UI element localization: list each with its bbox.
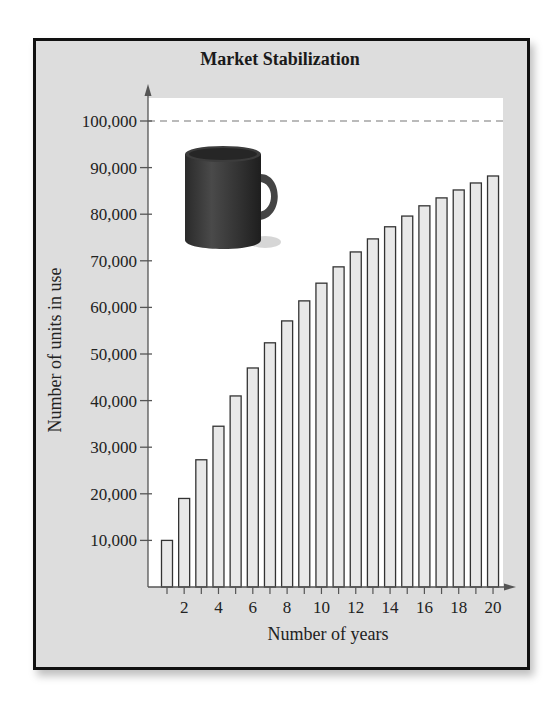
bar <box>367 239 378 587</box>
bar <box>282 321 293 587</box>
y-tick-label: 20,000 <box>90 485 137 504</box>
y-axis-label: Number of units in use <box>45 268 66 433</box>
x-tick-label: 6 <box>249 598 258 617</box>
y-tick-label: 30,000 <box>90 438 137 457</box>
x-axis-arrow-icon <box>504 584 516 591</box>
y-tick-label: 80,000 <box>90 205 137 224</box>
bar <box>436 198 447 587</box>
y-axis-arrow-icon <box>145 84 152 96</box>
y-tick-label: 90,000 <box>90 159 137 178</box>
bar <box>213 426 224 587</box>
bar <box>350 252 361 587</box>
x-tick-label: 16 <box>416 598 433 617</box>
y-tick-label: 100,000 <box>82 112 137 131</box>
x-tick-label: 4 <box>214 598 223 617</box>
x-tick-label: 8 <box>283 598 292 617</box>
x-tick-label: 18 <box>450 598 467 617</box>
x-tick-label: 12 <box>347 598 364 617</box>
y-tick-label: 70,000 <box>90 252 137 271</box>
bar <box>247 368 258 587</box>
y-tick-label: 40,000 <box>90 392 137 411</box>
x-tick-label: 20 <box>485 598 502 617</box>
bar <box>230 396 241 587</box>
bar <box>196 460 207 587</box>
bar <box>488 176 499 587</box>
coffee-mug-icon <box>183 144 283 254</box>
bar <box>419 206 430 587</box>
bar <box>179 498 190 587</box>
x-tick-label: 14 <box>382 598 400 617</box>
bar <box>316 283 327 587</box>
bar <box>453 190 464 587</box>
y-tick-label: 60,000 <box>90 298 137 317</box>
x-axis-label: Number of years <box>148 624 508 645</box>
bar-chart: 10,00020,00030,00040,00050,00060,00070,0… <box>0 0 560 708</box>
bar <box>299 301 310 587</box>
x-tick-label: 10 <box>313 598 330 617</box>
y-tick-label: 50,000 <box>90 345 137 364</box>
bar <box>385 227 396 587</box>
y-tick-label: 10,000 <box>90 531 137 550</box>
bar <box>470 183 481 587</box>
bar <box>402 216 413 587</box>
bar <box>333 267 344 587</box>
x-tick-label: 2 <box>180 598 189 617</box>
bar <box>162 540 173 587</box>
bar <box>264 343 275 587</box>
